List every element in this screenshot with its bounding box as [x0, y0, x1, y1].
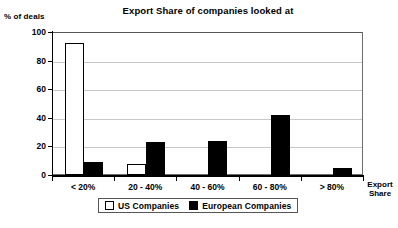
y-axis-tick	[48, 61, 52, 62]
x-axis-tick	[301, 176, 302, 181]
bars-layer	[53, 32, 363, 175]
bar-group	[115, 32, 177, 175]
x-axis-tick-label: 20 - 40%	[128, 182, 162, 192]
chart-title: Export Share of companies looked at	[52, 5, 364, 16]
x-axis-tick	[176, 176, 177, 181]
x-axis-title: Export Share	[362, 180, 398, 198]
x-axis-tick	[114, 176, 115, 181]
y-axis-title: % of deals	[4, 12, 45, 21]
bar-chart: % of deals Export Share of companies loo…	[0, 0, 398, 228]
y-axis-tick	[48, 146, 52, 147]
x-axis-tick-label: > 80%	[320, 182, 344, 192]
bar-group	[177, 32, 239, 175]
y-axis-tick	[48, 118, 52, 119]
x-axis-tick-label: < 20%	[71, 182, 95, 192]
bar-group	[302, 32, 364, 175]
bar-group	[240, 32, 302, 175]
x-axis-title-line-2: Share	[362, 189, 398, 198]
legend-label: European Companies	[202, 201, 291, 211]
y-axis-tick-label: 100	[16, 28, 46, 37]
legend-label: US Companies	[118, 201, 179, 211]
bar	[84, 162, 103, 175]
bar	[271, 115, 290, 175]
x-axis-tick-label: 40 - 60%	[190, 182, 224, 192]
y-axis-tick	[48, 89, 52, 90]
x-axis-tick	[239, 176, 240, 181]
legend-entry[interactable]: US Companies	[105, 201, 179, 211]
legend-swatch	[189, 201, 198, 210]
x-axis-title-line-1: Export	[362, 180, 398, 189]
legend-swatch	[105, 201, 114, 210]
bar	[333, 168, 352, 175]
y-axis-tick-label: 60	[16, 85, 46, 94]
x-axis-line	[52, 175, 364, 177]
y-axis-tick-label: 0	[16, 171, 46, 180]
bar	[65, 43, 84, 175]
x-axis-tick-label: 60 - 80%	[253, 182, 287, 192]
legend-entry[interactable]: European Companies	[189, 201, 291, 211]
y-axis-tick-label: 80	[16, 56, 46, 65]
bar	[208, 141, 227, 175]
bar-group	[53, 32, 115, 175]
bar	[146, 142, 165, 175]
y-axis-tick-label: 40	[16, 114, 46, 123]
y-axis-tick	[48, 32, 52, 33]
legend: US CompaniesEuropean Companies	[98, 198, 298, 213]
y-axis-tick-label: 20	[16, 142, 46, 151]
bar	[127, 164, 146, 175]
x-axis-tick	[52, 176, 53, 181]
